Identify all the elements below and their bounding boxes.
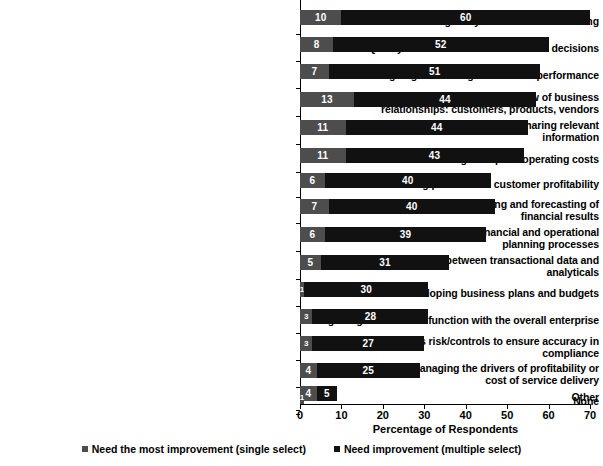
square-marker-black [334, 446, 340, 452]
x-axis-tick-label: 20 [368, 409, 398, 421]
bar-value-label: 40 [406, 202, 418, 212]
bar-segment-need-most-improvement: 3 [300, 336, 312, 351]
bar-row: 852 [300, 37, 590, 52]
bar-segment-need-most-improvement: 7 [300, 64, 329, 79]
bar-value-label: 4 [305, 366, 311, 376]
stacked-bar: 740 [300, 199, 495, 214]
bar-row: 328 [300, 309, 590, 324]
bar-segment-need-most-improvement: 7 [300, 199, 329, 214]
bar-row: 639 [300, 227, 590, 242]
bar-value-label: 13 [321, 95, 333, 105]
bar-value-label: 5 [307, 258, 313, 268]
bar-segment-need-improvement: 27 [312, 336, 424, 351]
bar-value-label: 28 [365, 312, 377, 322]
bar-row: 425 [300, 363, 590, 378]
bar-segment-need-most-improvement: 5 [300, 255, 321, 270]
bar-row: 751 [300, 64, 590, 79]
bar-value-label: 6 [310, 230, 316, 240]
bar-row: 640 [300, 173, 590, 188]
x-axis-tick-label: 50 [492, 409, 522, 421]
stacked-bar: 1 [300, 390, 304, 405]
bar-value-label: 8 [314, 40, 320, 50]
bar-segment-need-most-improvement: 10 [300, 10, 341, 25]
stacked-bar: 852 [300, 37, 549, 52]
bar-segment-need-improvement: 60 [341, 10, 590, 25]
bar-value-label: 39 [400, 230, 412, 240]
bar-value-label: 11 [317, 151, 328, 161]
x-axis-tick-label: 10 [326, 409, 356, 421]
bar-segment-need-improvement: 40 [325, 173, 491, 188]
bar-segment-need-improvement: 52 [333, 37, 548, 52]
bar-row: 531 [300, 255, 590, 270]
bar-value-label: 43 [429, 151, 441, 161]
bar-segment-need-improvement: 44 [346, 120, 528, 135]
bar-value-label: 3 [304, 340, 309, 348]
legend-item: Need the most improvement (single select… [82, 443, 306, 455]
stacked-bar: 1143 [300, 148, 524, 163]
bar-value-label: 44 [439, 95, 451, 105]
bar-segment-need-improvement: 28 [312, 309, 428, 324]
bar-segment-need-most-improvement: 11 [300, 120, 346, 135]
bar-value-label: 10 [315, 13, 327, 23]
bar-row: 1144 [300, 120, 590, 135]
x-axis-tick-label: 60 [534, 409, 564, 421]
square-marker-gray [82, 446, 88, 452]
bar-row: 130 [300, 282, 590, 297]
chart-legend: Need the most improvement (single select… [0, 443, 603, 455]
stacked-bar: 130 [300, 282, 428, 297]
bar-segment-need-improvement: 44 [354, 92, 536, 107]
bar-row: 327 [300, 336, 590, 351]
bar-segment-need-most-improvement: 13 [300, 92, 354, 107]
plot-area: 1060852751134411441143640740639531130328… [300, 4, 590, 400]
legend-label: Need improvement (multiple select) [344, 443, 521, 455]
bar-value-label: 44 [431, 123, 443, 133]
stacked-bar: 751 [300, 64, 540, 79]
bar-value-label: 11 [317, 123, 328, 133]
stacked-bar: 639 [300, 227, 486, 242]
bar-row: 1143 [300, 148, 590, 163]
x-axis-tick-label: 30 [409, 409, 439, 421]
x-axis-title: Percentage of Respondents [300, 423, 591, 435]
x-axis-tick-label: 40 [451, 409, 481, 421]
x-axis-tick-label: 0 [285, 409, 315, 421]
bar-segment-need-improvement: 25 [317, 363, 421, 378]
bar-value-label: 3 [304, 313, 309, 321]
bar-value-label: 7 [312, 67, 318, 77]
bar-segment-need-improvement: 40 [329, 199, 495, 214]
bar-segment-need-most-improvement: 4 [300, 363, 317, 378]
bar-segment-need-most-improvement: 6 [300, 227, 325, 242]
bar-segment-need-most-improvement: 11 [300, 148, 346, 163]
stacked-bar: 531 [300, 255, 449, 270]
bar-value-label: 25 [363, 366, 375, 376]
bar-row: 1344 [300, 92, 590, 107]
bar-row: 1 [300, 390, 590, 405]
bar-segment-need-improvement: 39 [325, 227, 487, 242]
bar-value-label: 30 [361, 285, 373, 295]
stacked-bar: 640 [300, 173, 491, 188]
bar-segment-need-most-improvement: 3 [300, 309, 312, 324]
bar-value-label: 51 [429, 67, 441, 77]
bar-value-label: 60 [460, 13, 472, 23]
stacked-bar: 327 [300, 336, 424, 351]
legend-item: Need improvement (multiple select) [334, 443, 521, 455]
bar-row: 1060 [300, 10, 590, 25]
x-axis-line [300, 404, 591, 405]
stacked-bar: 1344 [300, 92, 536, 107]
bar-segment-need-most-improvement: 1 [300, 390, 304, 405]
bar-segment-need-improvement: 51 [329, 64, 540, 79]
bar-segment-need-most-improvement: 6 [300, 173, 325, 188]
legend-label: Need the most improvement (single select… [92, 443, 306, 455]
bar-value-label: 40 [402, 176, 414, 186]
stacked-bar: 1060 [300, 10, 590, 25]
bar-value-label: 6 [310, 176, 316, 186]
bar-segment-need-improvement: 31 [321, 255, 449, 270]
bar-value-label: 52 [435, 40, 447, 50]
stacked-bar: 1144 [300, 120, 528, 135]
bar-value-label: 27 [363, 339, 375, 349]
bar-value-label: 1 [300, 394, 305, 402]
horizontal-stacked-bar-chart: Facilitating analysis and decision makin… [0, 0, 603, 466]
stacked-bar: 425 [300, 363, 420, 378]
bar-segment-need-improvement: 30 [304, 282, 428, 297]
x-axis-tick-label: 70 [575, 409, 603, 421]
bar-value-label: 7 [312, 202, 318, 212]
